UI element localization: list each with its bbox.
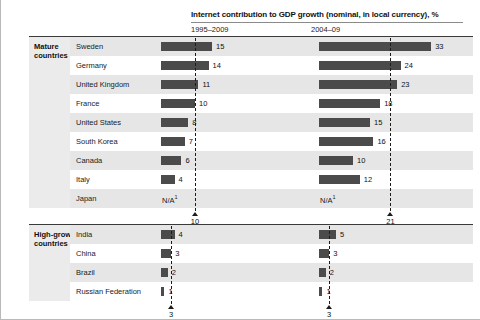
bar <box>319 80 397 89</box>
bar-value: 11 <box>202 80 210 89</box>
bar <box>161 42 212 51</box>
average-marker-triangle-icon <box>168 305 174 309</box>
average-marker-triangle-icon <box>192 212 198 216</box>
table-row: Germany1424 <box>70 56 473 75</box>
chart-title: Internet contribution to GDP growth (nom… <box>191 10 438 19</box>
table-row: China33 <box>70 244 473 263</box>
bar-value: 12 <box>364 175 372 184</box>
average-dashed-line <box>329 226 330 304</box>
bar-value: 15 <box>216 42 224 51</box>
bar <box>319 230 336 239</box>
bar-value: 3 <box>175 249 179 258</box>
row-label-south-korea: South Korea <box>76 137 118 146</box>
bar-value: 2 <box>330 268 334 277</box>
bar-value: 16 <box>377 137 385 146</box>
bar-value: 23 <box>401 80 409 89</box>
bar <box>161 118 188 127</box>
bar <box>319 249 329 258</box>
bar <box>161 230 175 239</box>
group-label-mature-line1: Mature <box>34 42 59 51</box>
table-row: Sweden1533 <box>70 37 473 56</box>
column-header-period-2: 2004–09 <box>311 25 340 34</box>
bar-value: 10 <box>199 99 207 108</box>
title-divider <box>191 22 463 23</box>
row-label-germany: Germany <box>76 61 107 70</box>
row-label-brazil: Brazil <box>76 268 95 277</box>
average-marker-triangle-icon <box>326 305 332 309</box>
chart-figure: Internet contribution to GDP growth (nom… <box>0 0 480 320</box>
row-label-japan: Japan <box>76 194 96 203</box>
table-row: Italy412 <box>70 170 473 189</box>
table-row: India45 <box>70 225 473 244</box>
bar-value: 2 <box>172 268 176 277</box>
bar <box>319 42 431 51</box>
column-header-period-1: 1995–2009 <box>191 25 229 34</box>
bar-value-na: N/A1 <box>162 194 178 205</box>
bar-value-na: N/A1 <box>320 194 336 205</box>
bar <box>319 61 401 70</box>
bar-value: 4 <box>179 175 183 184</box>
bar-value: 14 <box>213 61 221 70</box>
row-label-sweden: Sweden <box>76 42 103 51</box>
bar <box>319 268 326 277</box>
row-label-united-kingdom: United Kingdom <box>76 80 129 89</box>
row-label-india: India <box>76 230 92 239</box>
group-label-mature-line2: countries <box>34 51 68 60</box>
bar-value: 10 <box>357 156 365 165</box>
bar <box>319 156 353 165</box>
bar-value: 6 <box>185 156 189 165</box>
table-row: Brazil22 <box>70 263 473 282</box>
table-row: JapanN/A1N/A1 <box>70 189 473 208</box>
average-dashed-line <box>195 38 196 211</box>
table-row: United Kingdom1123 <box>70 75 473 94</box>
bar <box>161 99 195 108</box>
bar <box>319 175 360 184</box>
row-label-russian-federation: Russian Federation <box>76 287 141 296</box>
bar <box>319 137 373 146</box>
average-marker-triangle-icon <box>387 212 393 216</box>
table-row: France1018 <box>70 94 473 113</box>
bar <box>161 137 185 146</box>
row-label-united-states: United States <box>76 118 121 127</box>
table-row: Russian Federation11 <box>70 282 473 301</box>
bar <box>161 249 171 258</box>
table-row: Canada610 <box>70 151 473 170</box>
table-row: South Korea716 <box>70 132 473 151</box>
table-row: United States815 <box>70 113 473 132</box>
bar-value: 33 <box>435 42 443 51</box>
row-label-italy: Italy <box>76 175 90 184</box>
group-label-high-growth-line2: countries <box>34 239 68 248</box>
average-value-label: 3 <box>161 310 181 319</box>
bar-value: 7 <box>189 137 193 146</box>
bar <box>319 99 380 108</box>
bar <box>161 61 209 70</box>
row-label-china: China <box>76 249 96 258</box>
average-dashed-line <box>171 226 172 304</box>
bar-value: 4 <box>179 230 183 239</box>
row-label-canada: Canada <box>76 156 102 165</box>
bar <box>161 175 175 184</box>
rows-mature: Sweden1533Germany1424United Kingdom1123F… <box>70 37 473 208</box>
row-label-france: France <box>76 99 99 108</box>
bar <box>161 268 168 277</box>
group-panel-mature <box>29 37 70 208</box>
bar-value: 5 <box>340 230 344 239</box>
rows-high-growth: India45China33Brazil22Russian Federation… <box>70 225 473 301</box>
bar <box>319 287 322 296</box>
bar-value: 15 <box>374 118 382 127</box>
bar-value: 3 <box>333 249 337 258</box>
bar <box>161 287 164 296</box>
bar <box>161 156 181 165</box>
bar-value: 24 <box>405 61 413 70</box>
bar <box>319 118 370 127</box>
average-value-label: 3 <box>319 310 339 319</box>
bar <box>161 80 198 89</box>
average-dashed-line <box>390 38 391 211</box>
